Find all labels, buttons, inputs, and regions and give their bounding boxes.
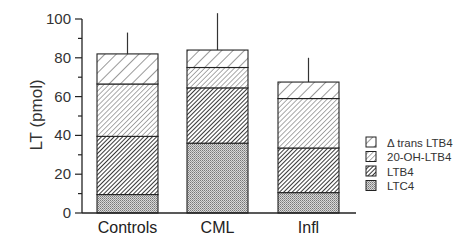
bar-infl	[278, 58, 339, 213]
bar-cml	[187, 13, 248, 213]
bar-segment-ltb4	[187, 88, 248, 143]
legend-item: Δ trans LTB4	[366, 137, 453, 149]
bars	[97, 13, 339, 213]
bar-segment--trans-ltb4	[278, 82, 339, 98]
y-tick-label: 0	[63, 204, 71, 221]
legend-swatch	[366, 181, 376, 191]
y-tick-label: 40	[54, 126, 71, 143]
legend-label: 20-OH-LTB4	[387, 151, 452, 163]
x-category-label: CML	[201, 219, 235, 236]
y-tick-label: 80	[54, 49, 71, 66]
bar-segment--trans-ltb4	[187, 50, 248, 67]
bar-segment-20-oh-ltb4	[278, 99, 339, 148]
legend-label: LTC4	[387, 180, 415, 192]
bar-segment-ltb4	[278, 148, 339, 193]
legend-label: Δ trans LTB4	[387, 137, 453, 149]
x-category-label: Infl	[298, 219, 319, 236]
stacked-bar-chart: 020406080100 ControlsCMLInfl Δ trans LTB…	[0, 0, 475, 242]
y-tick-label: 60	[54, 88, 71, 105]
legend-label: LTB4	[387, 166, 414, 178]
bar-segment--trans-ltb4	[97, 54, 158, 84]
bar-segment-20-oh-ltb4	[97, 84, 158, 136]
legend-item: LTC4	[366, 180, 415, 192]
legend-swatch	[366, 137, 376, 147]
legend: Δ trans LTB420-OH-LTB4LTB4LTC4	[366, 137, 453, 193]
legend-item: 20-OH-LTB4	[366, 151, 452, 163]
bar-segment-ltb4	[97, 136, 158, 194]
y-axis: 020406080100	[46, 10, 82, 221]
y-tick-label: 20	[54, 165, 71, 182]
bar-segment-ltc4	[97, 195, 158, 213]
bar-controls	[97, 33, 158, 213]
bar-segment-20-oh-ltb4	[187, 68, 248, 88]
x-axis: ControlsCMLInfl	[82, 213, 356, 236]
legend-swatch	[366, 152, 376, 162]
bar-segment-ltc4	[278, 193, 339, 213]
bar-segment-ltc4	[187, 143, 248, 213]
y-axis-label: LT (pmol)	[27, 79, 46, 150]
y-tick-label: 100	[46, 10, 71, 27]
legend-swatch	[366, 166, 376, 176]
legend-item: LTB4	[366, 166, 414, 178]
x-category-label: Controls	[98, 219, 158, 236]
